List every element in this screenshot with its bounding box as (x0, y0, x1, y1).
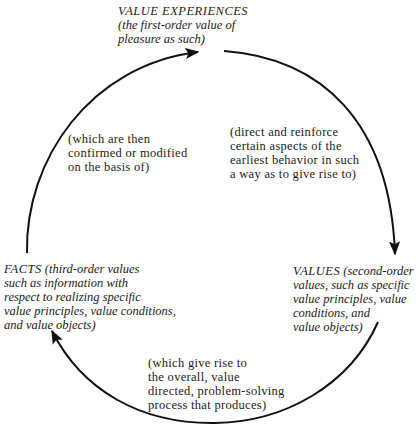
edge-label-line: confirmed or modified (68, 146, 187, 160)
node-title: VALUES (293, 264, 340, 278)
node-description-line: value principles, value conditions, (4, 304, 176, 318)
edge-label-line: certain aspects of the (230, 139, 359, 153)
node-description-line: value principles, value (293, 292, 414, 306)
node-description-line: respect to realizing specific (4, 290, 176, 304)
edge-label-line: directed, problem-solving (148, 384, 285, 398)
node-description-line: such as information with (4, 276, 176, 290)
node-facts: FACTS (third-order values such as inform… (4, 262, 176, 332)
node-description-line: pleasure as such) (118, 32, 248, 46)
edge-label-line: the overall, value (148, 370, 285, 384)
edge-label-experiences-to-values: (direct and reinforce certain aspects of… (230, 125, 359, 181)
node-first-line: FACTS (third-order values (4, 262, 176, 276)
node-description-line: (second-order (343, 264, 413, 278)
node-description-line: value objects) (293, 320, 414, 334)
edge-label-line: process that produces) (148, 398, 285, 412)
node-description-line: values, such as specific (293, 278, 414, 292)
edge-label-values-to-facts: (which give rise to the overall, value d… (148, 356, 285, 412)
edge-label-line: (direct and reinforce (230, 125, 359, 139)
node-first-line: VALUES (second-order (293, 264, 414, 278)
edge-label-line: (which give rise to (148, 356, 285, 370)
node-description-line: and value objects) (4, 318, 176, 332)
edge-label-line: on the basis of) (68, 160, 187, 174)
node-description-line: conditions, and (293, 306, 414, 320)
node-value-experiences: VALUE EXPERIENCES (the first-order value… (118, 4, 248, 46)
node-title: FACTS (4, 262, 42, 276)
edge-label-line: a way as to give rise to) (230, 167, 359, 181)
node-values: VALUES (second-order values, such as spe… (293, 264, 414, 334)
node-description-line: (the first-order value of (118, 18, 248, 32)
edge-label-line: earliest behavior in such (230, 153, 359, 167)
edge-label-facts-to-experiences: (which are then confirmed or modified on… (68, 132, 187, 174)
value-cycle-diagram: VALUE EXPERIENCES (the first-order value… (0, 0, 418, 425)
node-title: VALUE EXPERIENCES (118, 4, 248, 18)
edge-label-line: (which are then (68, 132, 187, 146)
node-description-line: (third-order values (45, 262, 140, 276)
